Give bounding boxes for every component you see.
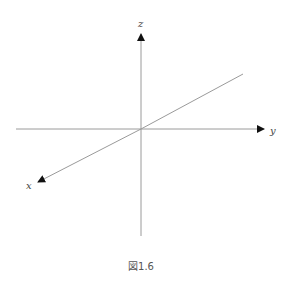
- figure-caption: 図1.6: [0, 258, 282, 273]
- x-axis-extension: [141, 74, 243, 129]
- axes-diagram: z y x: [0, 0, 292, 286]
- z-axis-label: z: [137, 18, 144, 29]
- x-axis-label: x: [26, 180, 32, 191]
- x-axis: [38, 129, 141, 182]
- y-axis-label: y: [269, 125, 276, 136]
